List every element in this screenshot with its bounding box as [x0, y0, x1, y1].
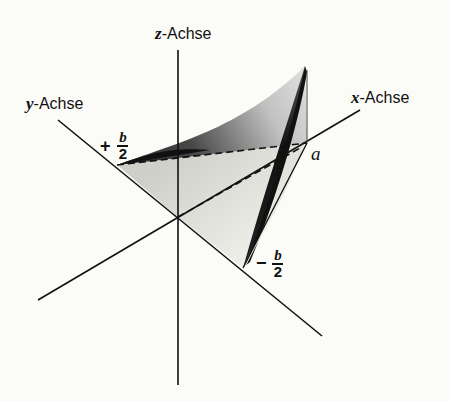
plus-half-b-label: + b 2 [100, 130, 140, 166]
x-axis-label: x-Achse [351, 88, 409, 108]
diagram-canvas [0, 0, 450, 402]
z-axis-label: z-Achse [155, 24, 211, 44]
minus-half-b-label: − b 2 [256, 248, 296, 284]
y-axis-label: y-Achse [26, 94, 83, 114]
point-a-label: a [311, 143, 321, 165]
